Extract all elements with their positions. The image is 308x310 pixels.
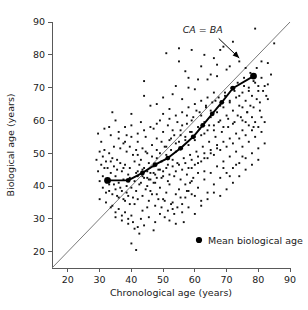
scatter-point [176, 121, 178, 123]
scatter-point [215, 136, 217, 138]
scatter-point [221, 131, 223, 133]
scatter-point [178, 47, 180, 49]
scatter-point [184, 162, 186, 164]
scatter-point [143, 167, 145, 169]
scatter-point [183, 221, 185, 223]
scatter-point [108, 183, 110, 185]
scatter-point [145, 151, 147, 153]
x-tick-label-40: 40 [125, 274, 137, 285]
scatter-point [175, 223, 177, 225]
scatter-point [108, 190, 110, 192]
scatter-point [257, 126, 259, 128]
scatter-point [108, 152, 110, 154]
scatter-point [148, 179, 150, 181]
scatter-point [142, 210, 144, 212]
y-tick-label-50: 50 [33, 148, 45, 159]
scatter-point [162, 198, 164, 200]
scatter-point [153, 172, 155, 174]
scatter-point [238, 162, 240, 164]
scatter-point [194, 164, 196, 166]
scatter-point [200, 100, 202, 102]
scatter-point [270, 74, 272, 76]
scatter-point [116, 169, 118, 171]
scatter-point [169, 183, 171, 185]
scatter-point [219, 120, 221, 122]
scatter-point [188, 144, 190, 146]
scatter-point [115, 120, 117, 122]
scatter-point [135, 172, 137, 174]
scatter-point [180, 179, 182, 181]
scatter-point [184, 197, 186, 199]
scatter-point [146, 152, 148, 154]
scatter-point [156, 177, 158, 179]
scatter-point [205, 105, 207, 107]
scatter-point [184, 139, 186, 141]
scatter-point [261, 131, 263, 133]
scatter-point [143, 80, 145, 82]
scatter-point [149, 105, 151, 107]
scatter-point [118, 138, 120, 140]
legend-label: Mean biological age [208, 235, 303, 246]
scatter-point [172, 165, 174, 167]
scatter-point [248, 124, 250, 126]
scatter-point [216, 111, 218, 113]
x-tick-label-20: 20 [62, 274, 74, 285]
scatter-point [207, 97, 209, 99]
scatter-point [205, 106, 207, 108]
scatter-point [100, 164, 102, 166]
scatter-point [232, 167, 234, 169]
scatter-point [172, 208, 174, 210]
scatter-point [115, 211, 117, 213]
scatter-point [102, 187, 104, 189]
scatter-point [203, 152, 205, 154]
scatter-point [140, 159, 142, 161]
scatter-point [181, 203, 183, 205]
scatter-point [226, 69, 228, 71]
x-tick-label-70: 70 [220, 274, 232, 285]
scatter-point [178, 60, 180, 62]
identity-line [52, 22, 290, 268]
x-tick-label-60: 60 [189, 274, 201, 285]
scatter-point [142, 175, 144, 177]
scatter-point [175, 170, 177, 172]
scatter-point [143, 224, 145, 226]
scatter-point [251, 129, 253, 131]
scatter-point [238, 138, 240, 140]
scatter-point [156, 193, 158, 195]
scatter-point [142, 195, 144, 197]
scatter-point [210, 74, 212, 76]
scatter-point [238, 60, 240, 62]
scatter-point [124, 164, 126, 166]
scatter-point [254, 28, 256, 30]
scatter-point [103, 128, 105, 130]
scatter-point [99, 180, 101, 182]
mean-marker [210, 111, 215, 116]
scatter-point [237, 82, 239, 84]
scatter-point [232, 110, 234, 112]
scatter-point [146, 185, 148, 187]
scatter-point [267, 62, 269, 64]
scatter-point [173, 134, 175, 136]
scatter-point [242, 92, 244, 94]
scatter-point [178, 188, 180, 190]
scatter-point [172, 159, 174, 161]
scatter-point [134, 161, 136, 163]
scatter-point [227, 126, 229, 128]
scatter-point [184, 136, 186, 138]
scatter-point [207, 157, 209, 159]
figure-container: 2030405060708090 2030405060708090 CA = B… [0, 0, 308, 310]
scatter-point [149, 126, 151, 128]
scatter-point [200, 200, 202, 202]
scatter-point [194, 88, 196, 90]
annotation-label: CA = BA [183, 24, 223, 35]
scatter-point [216, 165, 218, 167]
scatter-point [229, 101, 231, 103]
scatter-point [172, 129, 174, 131]
scatter-point [249, 105, 251, 107]
scatter-point [99, 198, 101, 200]
scatter-point [194, 195, 196, 197]
scatter-point [170, 203, 172, 205]
scatter-point [126, 134, 128, 136]
scatter-point [164, 216, 166, 218]
scatter-point [249, 72, 251, 74]
